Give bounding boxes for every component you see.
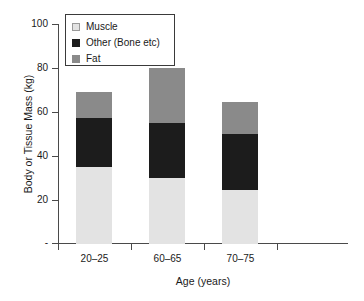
x-axis-tick-1 <box>131 244 132 250</box>
bar-segment-fat[interactable] <box>222 102 258 134</box>
legend-item-fat[interactable]: Fat <box>72 52 100 66</box>
bar-segment-fat[interactable] <box>76 92 112 117</box>
stacked-bar-chart: 100 80 60 40 20 - 20–25 60–65 70–75 Age … <box>0 0 364 301</box>
bar-segment-fat[interactable] <box>149 68 185 123</box>
y-axis-label-0: - <box>45 238 48 248</box>
x-axis-title: Age (years) <box>58 275 348 287</box>
legend-swatch-muscle-icon <box>72 23 80 31</box>
bar-segment-muscle[interactable] <box>76 167 112 244</box>
x-axis-tick-start <box>58 244 59 250</box>
legend-label-muscle: Muscle <box>86 22 118 32</box>
y-axis-label-40: 40 <box>37 151 48 161</box>
legend-item-other-bone[interactable]: Other (Bone etc) <box>72 36 160 50</box>
y-axis-label-20: 20 <box>37 195 48 205</box>
legend-swatch-fat-icon <box>72 55 80 63</box>
x-axis-tick-3 <box>277 244 278 250</box>
y-axis-label-60: 60 <box>37 107 48 117</box>
y-axis-label-80: 80 <box>37 63 48 73</box>
x-axis-label-70-75: 70–75 <box>204 253 277 264</box>
bar-segment-other-bone[interactable] <box>149 123 185 178</box>
legend-label-other-bone: Other (Bone etc) <box>86 38 160 48</box>
bar-segment-other-bone[interactable] <box>222 134 258 190</box>
legend-label-fat: Fat <box>86 54 100 64</box>
y-axis-title: Body or Tissue Mass (kg) <box>22 44 34 224</box>
bar-segment-muscle[interactable] <box>149 178 185 244</box>
legend: Muscle Other (Bone etc) Fat <box>65 14 175 66</box>
x-axis-label-60-65: 60–65 <box>131 253 204 264</box>
bar-segment-muscle[interactable] <box>222 190 258 244</box>
legend-item-muscle[interactable]: Muscle <box>72 20 118 34</box>
x-axis-tick-2 <box>204 244 205 250</box>
x-axis-label-20-25: 20–25 <box>58 253 131 264</box>
bar-segment-other-bone[interactable] <box>76 118 112 168</box>
y-axis-label-100: 100 <box>31 19 48 29</box>
legend-swatch-other-bone-icon <box>72 39 80 47</box>
